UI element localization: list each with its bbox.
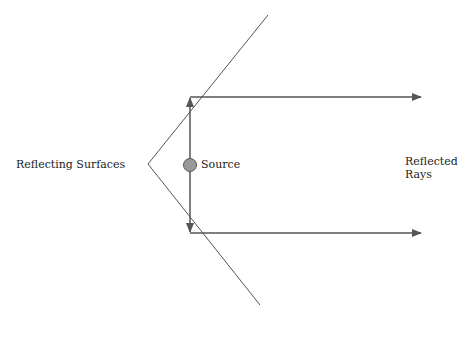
lower-mirror xyxy=(148,164,260,305)
rays-label-line2: Rays xyxy=(405,168,432,181)
rays-label-line1: Reflected xyxy=(405,155,458,168)
source-point xyxy=(184,159,197,172)
upper-mirror xyxy=(148,15,268,164)
source-label: Source xyxy=(201,158,240,171)
surfaces-label: Reflecting Surfaces xyxy=(16,158,125,171)
